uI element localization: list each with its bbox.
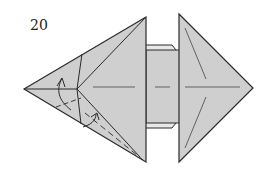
origami-diagram: 20 xyxy=(0,0,269,170)
middle-rectangle xyxy=(146,50,180,123)
left-point xyxy=(24,17,146,162)
fold-illustration xyxy=(0,0,269,170)
right-point xyxy=(179,14,253,162)
